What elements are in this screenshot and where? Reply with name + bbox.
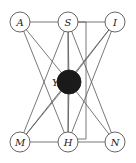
graph-diagram: ASIYMHN: [0, 0, 136, 163]
node-label: A: [15, 17, 23, 28]
node-label: N: [110, 137, 121, 148]
node-m: M: [10, 132, 30, 152]
node-label: H: [63, 137, 73, 148]
node-n: N: [105, 132, 125, 152]
node-i: I: [105, 12, 125, 32]
node-label: M: [14, 137, 26, 148]
node-h: H: [58, 132, 78, 152]
node-label: S: [65, 17, 72, 28]
filled-node-circle: [57, 70, 81, 94]
node-s: S: [58, 12, 78, 32]
nodes-layer: ASIYMHN: [10, 12, 125, 152]
node-a: A: [10, 12, 30, 32]
node-y: Y: [52, 70, 81, 94]
